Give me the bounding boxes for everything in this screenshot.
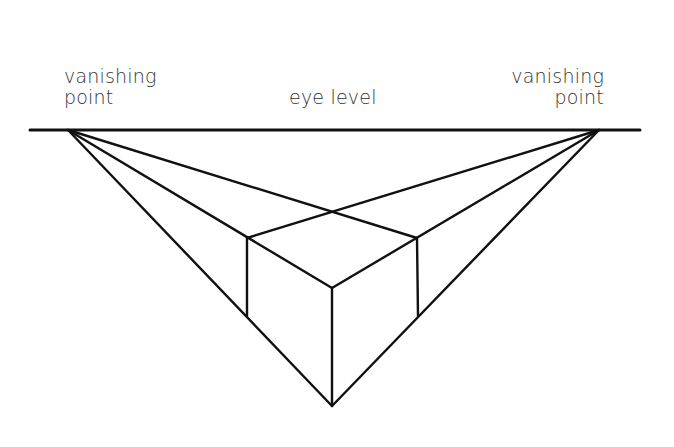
left-vp-label-line2: point [64, 87, 157, 108]
right-vp-label-line1: vanishing [511, 66, 604, 87]
eye-level-text: eye level [289, 87, 377, 108]
right-vp-label-line2: point [511, 87, 604, 108]
right-vanishing-point-label: vanishing point [511, 66, 604, 108]
left-vp-label-line1: vanishing [64, 66, 157, 87]
left-vanishing-point-label: vanishing point [64, 66, 157, 108]
cube-right-edge [417, 238, 418, 316]
eye-level-label: eye level [289, 87, 377, 108]
two-point-perspective-diagram: vanishing point vanishing point eye leve… [0, 0, 674, 447]
left-vp-to-front-top [68, 130, 332, 288]
right-vp-to-front-top [332, 130, 599, 288]
